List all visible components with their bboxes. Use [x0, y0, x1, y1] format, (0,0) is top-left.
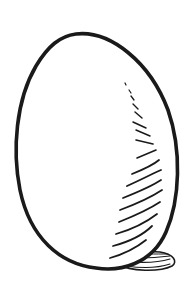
egg-illustration: Hand-drawn egg with hatched shading and … [0, 0, 194, 303]
egg-drawing [0, 0, 194, 303]
